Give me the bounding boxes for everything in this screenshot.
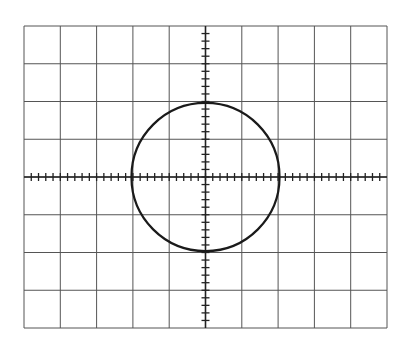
- oscilloscope-screen: [0, 0, 410, 339]
